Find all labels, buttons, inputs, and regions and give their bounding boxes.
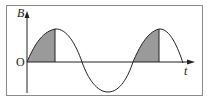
b-axis-label: B	[17, 6, 25, 20]
origin-label: O	[16, 55, 25, 69]
sine-diagram: B O t	[0, 0, 207, 102]
